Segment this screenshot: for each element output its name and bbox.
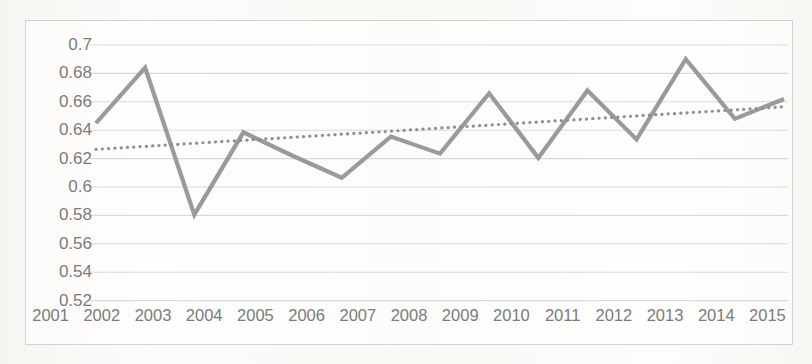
x-axis-tick-labels: 2001200220032004200520062007200820092010…: [25, 300, 793, 330]
y-axis-tick-label: 0.62: [34, 149, 92, 166]
x-axis-tick-label: 2001: [25, 300, 76, 330]
y-axis-tick-label: 0.68: [34, 64, 92, 81]
y-axis-tick-label: 0.58: [34, 206, 92, 223]
data-series-group: [96, 59, 784, 214]
y-axis-tick-label: 0.64: [34, 121, 92, 138]
x-axis-tick-label: 2007: [332, 300, 383, 330]
x-axis-tick-label: 2004: [179, 300, 230, 330]
x-axis-tick-label: 2010: [486, 300, 537, 330]
gridlines: [90, 45, 788, 301]
x-axis-tick-label: 2006: [281, 300, 332, 330]
x-axis-tick-label: 2009: [435, 300, 486, 330]
page-background: 0.70.680.660.640.620.60.580.560.540.52 2…: [0, 0, 812, 364]
y-axis-tick-label: 0.54: [34, 263, 92, 280]
y-axis-tick-label: 0.66: [34, 92, 92, 109]
y-axis-tick-labels: 0.70.680.660.640.620.60.580.560.540.52: [30, 20, 92, 345]
y-axis-tick-label: 0.56: [34, 234, 92, 251]
x-axis-tick-label: 2002: [76, 300, 127, 330]
chart-plot-area: [26, 21, 794, 346]
x-axis-tick-label: 2012: [588, 300, 639, 330]
y-axis-tick-label: 0.7: [34, 36, 92, 53]
series-line-path: [96, 59, 784, 214]
x-axis-tick-label: 2014: [691, 300, 742, 330]
x-axis-tick-label: 2003: [127, 300, 178, 330]
trendline-path: [96, 107, 784, 150]
chart-frame: [25, 20, 793, 345]
x-axis-tick-label: 2011: [537, 300, 588, 330]
x-axis-tick-label: 2005: [230, 300, 281, 330]
y-axis-tick-label: 0.6: [34, 178, 92, 195]
x-axis-tick-label: 2013: [639, 300, 690, 330]
x-axis-tick-label: 2015: [742, 300, 793, 330]
x-axis-tick-label: 2008: [383, 300, 434, 330]
